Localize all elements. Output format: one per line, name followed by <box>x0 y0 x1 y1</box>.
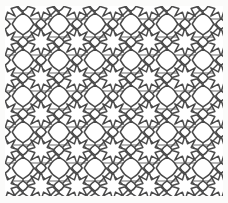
star-motif <box>63 136 92 165</box>
star-motif <box>171 100 200 129</box>
star-motif <box>135 64 164 93</box>
lobe-motif <box>0 199 10 203</box>
star-motif <box>135 28 164 57</box>
star-motif <box>171 28 200 57</box>
star-motif <box>99 64 128 93</box>
star-motif <box>99 100 128 129</box>
star-motif <box>27 172 56 201</box>
star-motif <box>99 172 128 201</box>
star-motif <box>27 64 56 93</box>
star-motif <box>63 64 92 93</box>
lobe-motif <box>216 199 226 203</box>
star-motif <box>99 28 128 57</box>
star-motif <box>63 172 92 201</box>
lobe-motif <box>108 199 118 203</box>
star-motif <box>27 136 56 165</box>
star-motif <box>135 136 164 165</box>
star-motif <box>63 100 92 129</box>
star-motif <box>63 28 92 57</box>
lobe-motif <box>180 199 190 203</box>
geometric-pattern-canvas <box>0 0 228 203</box>
pattern-image: Islamic geometric star-and-cross tessell… <box>0 0 228 203</box>
lobe-motif <box>36 199 46 203</box>
star-motif <box>135 100 164 129</box>
star-motif <box>171 172 200 201</box>
star-motif <box>99 136 128 165</box>
star-motif <box>27 100 56 129</box>
star-motif <box>171 136 200 165</box>
star-motif <box>171 64 200 93</box>
lobe-motif <box>144 199 154 203</box>
lobe-motif <box>72 199 82 203</box>
star-motif <box>135 172 164 201</box>
star-motif <box>27 28 56 57</box>
